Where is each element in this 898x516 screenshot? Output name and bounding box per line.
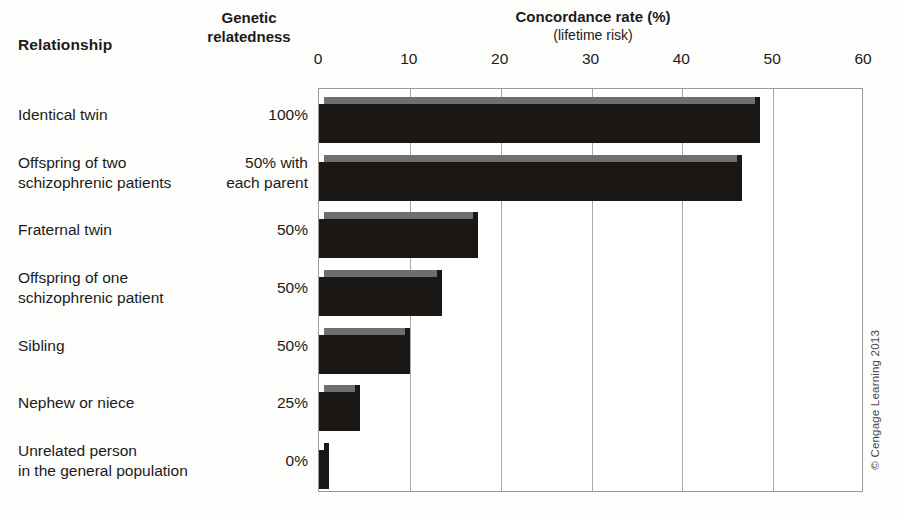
bar-side-face [737, 155, 742, 201]
bar [319, 385, 360, 431]
row-genetic-relatedness-line: each parent [190, 173, 308, 193]
row-genetic-relatedness-line: 100% [190, 105, 308, 125]
bar-side-face [473, 212, 478, 258]
copyright-credit: © Cengage Learning 2013 [869, 330, 881, 470]
bar-front-face [319, 104, 755, 143]
row-genetic-relatedness: 50% [190, 278, 308, 298]
x-tick-20: 20 [491, 50, 508, 68]
gridline-30 [592, 89, 593, 491]
row-label: Offspring of twoschizophrenic patients [18, 153, 171, 193]
bar [319, 270, 442, 316]
row-label: Offspring of oneschizophrenic patient [18, 268, 164, 308]
x-tick-0: 0 [314, 50, 323, 68]
row-genetic-relatedness-line: 0% [190, 451, 308, 471]
row-label-line: Identical twin [18, 105, 108, 125]
row-label: Unrelated personin the general populatio… [18, 441, 188, 481]
bar-top-face [324, 97, 760, 104]
row-label-line: schizophrenic patient [18, 288, 164, 308]
bar-side-face [324, 443, 329, 489]
row-label-line: Offspring of two [18, 153, 171, 173]
row-genetic-relatedness-line: 50% [190, 278, 308, 298]
row-genetic-relatedness-line: 25% [190, 393, 308, 413]
row-genetic-relatedness-line: 50% [190, 220, 308, 240]
x-tick-30: 30 [582, 50, 599, 68]
plot-area [318, 88, 863, 492]
bar-front-face [319, 392, 355, 431]
bar [319, 443, 329, 489]
row-genetic-relatedness: 50% witheach parent [190, 153, 308, 193]
gridline-50 [773, 89, 774, 491]
row-label-line: in the general population [18, 461, 188, 481]
x-tick-40: 40 [673, 50, 690, 68]
x-tick-60: 60 [854, 50, 871, 68]
row-genetic-relatedness: 100% [190, 105, 308, 125]
bar-front-face [319, 335, 405, 374]
bar [319, 155, 742, 201]
row-genetic-relatedness: 0% [190, 451, 308, 471]
row-label: Sibling [18, 336, 65, 356]
row-label: Fraternal twin [18, 220, 112, 240]
bar-top-face [324, 212, 478, 219]
chart-figure: Relationship Genetic relatedness Concord… [0, 0, 898, 516]
row-label: Identical twin [18, 105, 108, 125]
row-label: Nephew or niece [18, 393, 134, 413]
bar [319, 328, 410, 374]
x-tick-50: 50 [764, 50, 781, 68]
bar-top-face [324, 328, 410, 335]
bar-front-face [319, 219, 473, 258]
column-header-genetic-line1: Genetic [190, 8, 308, 27]
bar-side-face [437, 270, 442, 316]
bar-side-face [755, 97, 760, 143]
bar [319, 97, 760, 143]
row-label-line: Offspring of one [18, 268, 164, 288]
row-genetic-relatedness: 25% [190, 393, 308, 413]
bar-top-face [324, 270, 442, 277]
gridline-40 [682, 89, 683, 491]
chart-subtitle: (lifetime risk) [478, 27, 708, 43]
bar-front-face [319, 162, 737, 201]
bar-side-face [355, 385, 360, 431]
row-label-line: Nephew or niece [18, 393, 134, 413]
chart-title: Concordance rate (%) [478, 8, 708, 25]
row-genetic-relatedness-line: 50% [190, 336, 308, 356]
row-label-line: Sibling [18, 336, 65, 356]
x-tick-10: 10 [400, 50, 417, 68]
row-genetic-relatedness: 50% [190, 336, 308, 356]
row-genetic-relatedness: 50% [190, 220, 308, 240]
bar-side-face [405, 328, 410, 374]
bar [319, 212, 478, 258]
row-genetic-relatedness-line: 50% with [190, 153, 308, 173]
gridline-20 [501, 89, 502, 491]
column-header-relationship: Relationship [18, 36, 112, 54]
bar-top-face [324, 155, 742, 162]
row-label-line: Unrelated person [18, 441, 188, 461]
column-header-genetic-line2: relatedness [190, 27, 308, 46]
row-label-line: Fraternal twin [18, 220, 112, 240]
bar-front-face [319, 277, 437, 316]
column-header-genetic-relatedness: Genetic relatedness [190, 8, 308, 46]
row-label-line: schizophrenic patients [18, 173, 171, 193]
